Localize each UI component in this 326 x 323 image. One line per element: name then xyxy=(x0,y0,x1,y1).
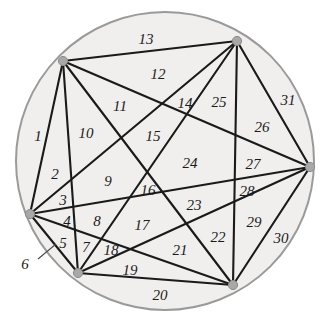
region-label-28: 28 xyxy=(240,184,255,199)
region-label-4: 4 xyxy=(63,214,71,229)
region-label-16: 16 xyxy=(141,183,156,198)
region-label-26: 26 xyxy=(255,120,270,135)
region-label-9: 9 xyxy=(104,174,112,189)
circle-regions-figure: 1234567891011121314151617181920212223242… xyxy=(0,0,326,323)
region-label-13: 13 xyxy=(139,32,154,47)
vertex-point-E xyxy=(73,268,82,277)
region-label-29: 29 xyxy=(247,215,262,230)
region-label-21: 21 xyxy=(173,243,188,258)
vertex-point-B xyxy=(232,36,241,45)
region-label-2: 2 xyxy=(51,167,59,182)
region-label-20: 20 xyxy=(153,288,168,303)
region-label-14: 14 xyxy=(178,96,193,111)
region-label-24: 24 xyxy=(183,156,198,171)
region-label-5: 5 xyxy=(59,236,67,251)
region-label-8: 8 xyxy=(93,214,101,229)
region-label-23: 23 xyxy=(187,198,202,213)
region-label-25: 25 xyxy=(212,95,227,110)
vertex-point-A xyxy=(58,56,67,65)
region-label-18: 18 xyxy=(104,243,119,258)
vertex-point-C xyxy=(305,162,314,171)
region-label-30: 30 xyxy=(274,231,289,246)
region-label-11: 11 xyxy=(113,99,127,114)
region-label-10: 10 xyxy=(79,126,94,141)
vertex-point-D xyxy=(228,280,237,289)
region-label-15: 15 xyxy=(146,129,161,144)
region-label-19: 19 xyxy=(123,263,138,278)
region-label-3: 3 xyxy=(59,193,67,208)
region-label-12: 12 xyxy=(151,67,166,82)
region-label-1: 1 xyxy=(34,129,42,144)
region-label-31: 31 xyxy=(281,93,296,108)
region-label-7: 7 xyxy=(82,240,90,255)
region-label-27: 27 xyxy=(246,157,261,172)
figure-canvas xyxy=(0,0,326,323)
region-label-22: 22 xyxy=(211,230,226,245)
vertex-point-F xyxy=(25,209,34,218)
region-label-6: 6 xyxy=(21,257,29,272)
region-label-17: 17 xyxy=(135,218,150,233)
